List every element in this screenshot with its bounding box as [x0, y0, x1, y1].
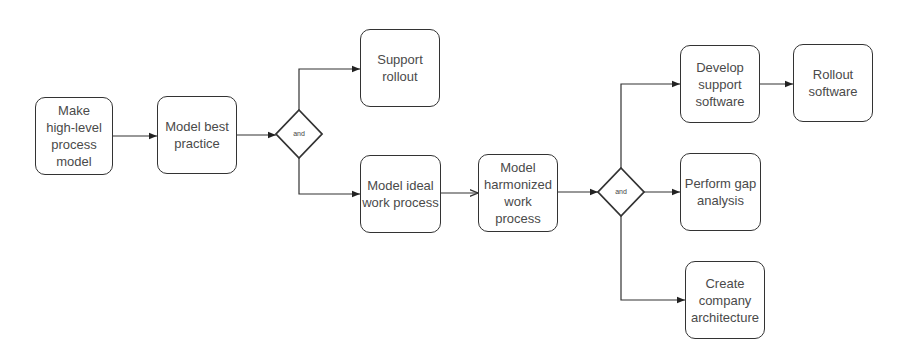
- node-label: Model best practice: [161, 118, 233, 152]
- edge-g1-n3: [299, 69, 360, 110]
- node-label: Rollout software: [803, 66, 863, 100]
- edge-g1-n4: [299, 158, 360, 194]
- edge-g2-n6: [621, 84, 680, 168]
- node-model-best-practice[interactable]: Model best practice: [157, 96, 237, 174]
- node-label: Perform gap analysis: [682, 175, 759, 209]
- node-model-harmonized-work-process[interactable]: Model harmonized work process: [478, 154, 558, 232]
- node-develop-support-software[interactable]: Develop support software: [680, 45, 760, 123]
- node-create-company-architecture[interactable]: Create company architecture: [685, 261, 765, 339]
- node-make-high-level-process-model[interactable]: Make high-level process model: [35, 97, 113, 175]
- node-label: Model harmonized work process: [480, 159, 556, 227]
- node-perform-gap-analysis[interactable]: Perform gap analysis: [680, 153, 761, 231]
- gateway-2-label: and: [606, 187, 636, 197]
- node-rollout-software[interactable]: Rollout software: [793, 44, 873, 122]
- gateway-1-label: and: [284, 129, 314, 139]
- edge-g2-n9: [621, 216, 685, 300]
- node-model-ideal-work-process[interactable]: Model ideal work process: [360, 155, 441, 233]
- node-label: Model ideal work process: [362, 177, 439, 211]
- node-label: Develop support software: [689, 59, 751, 110]
- node-support-rollout[interactable]: Support rollout: [360, 29, 440, 107]
- node-label: Support rollout: [372, 51, 428, 85]
- node-label: Create company architecture: [688, 275, 762, 326]
- flowchart-canvas: [0, 0, 903, 359]
- node-label: Make high-level process model: [43, 102, 105, 170]
